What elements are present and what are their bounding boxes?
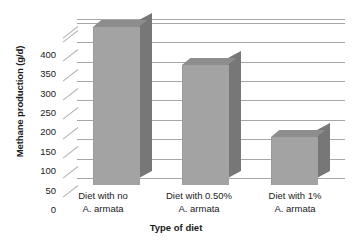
gridline-depth-connector	[63, 88, 79, 100]
y-axis-tick-labels: 400350300250200150100500	[26, 30, 56, 185]
bar-front-face	[271, 137, 318, 185]
gridline-depth-connector	[63, 69, 79, 81]
y-axis-tick-label: 350	[40, 68, 56, 79]
x-axis-tick-label-line: Diet with 0.50%	[151, 189, 247, 202]
x-axis-tick-label: Diet with 1%A. armata	[247, 189, 343, 215]
bar-top-face	[271, 130, 325, 137]
y-axis-tick-label: 100	[40, 165, 56, 176]
y-axis-title: Methane production (g/d)	[14, 17, 25, 187]
bar[interactable]	[182, 65, 228, 185]
x-axis-tick-label-line: Diet with 1%	[247, 189, 343, 202]
x-axis-tick-label-line: A. armata	[247, 202, 343, 215]
y-axis-tick-label: 250	[40, 106, 56, 117]
x-axis-tick-label-line: Diet with no	[55, 189, 151, 202]
y-axis-tick-label: 300	[40, 87, 56, 98]
y-axis-tick-label: 200	[40, 126, 56, 137]
bar-front-face	[182, 65, 229, 185]
bar-top-face	[182, 58, 236, 65]
x-axis-title: Type of diet	[0, 222, 352, 233]
bar-top-face	[93, 20, 147, 27]
gridline-depth-connector	[63, 107, 79, 119]
bar-chart: Methane production (g/d) 400350300250200…	[0, 0, 352, 251]
x-axis-tick-label-line: A. armata	[151, 202, 247, 215]
y-axis-tick-label: 400	[40, 48, 56, 59]
x-axis-tick-labels: Diet with noA. armataDiet with 0.50%A. a…	[55, 189, 345, 221]
gridline-depth-connector	[63, 127, 79, 139]
x-axis-tick-label: Diet with 0.50%A. armata	[151, 189, 247, 215]
gridline-depth-connector	[63, 146, 79, 158]
bar[interactable]	[93, 27, 139, 185]
gridline-depth-connector	[63, 166, 79, 178]
bar-side-face	[228, 52, 241, 178]
bar[interactable]	[271, 137, 317, 185]
bar-front-face	[93, 27, 140, 185]
y-axis-tick-label: 150	[40, 145, 56, 156]
plot-area	[59, 18, 345, 185]
x-axis-tick-label: Diet with noA. armata	[55, 189, 151, 215]
x-axis-tick-label-line: A. armata	[55, 202, 151, 215]
gridline-depth-connector	[63, 49, 79, 61]
bar-side-face	[139, 13, 152, 178]
